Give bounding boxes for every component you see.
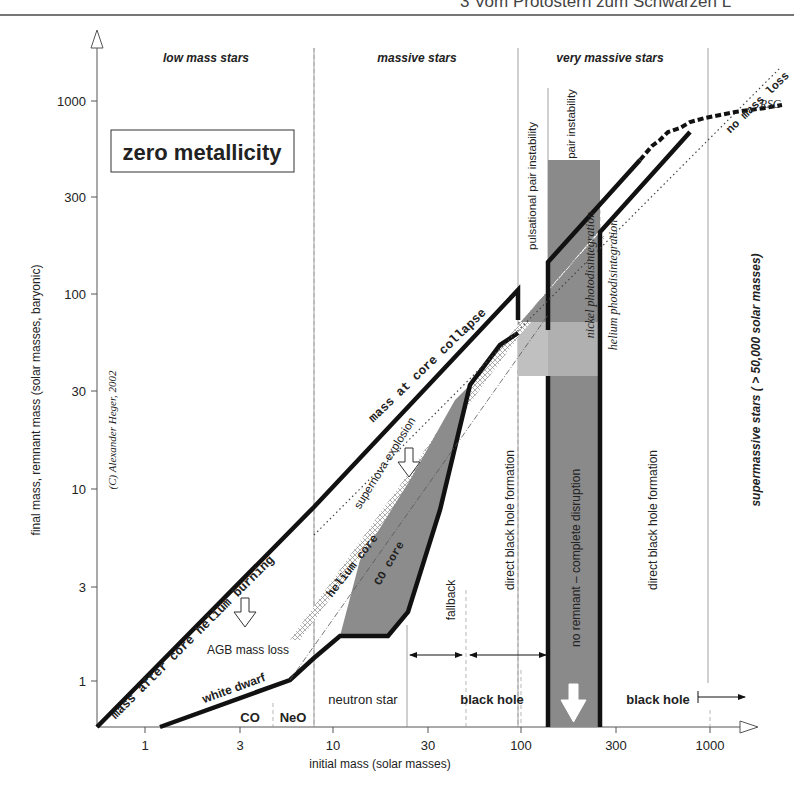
y-tick-10: 10 [72,482,86,497]
x-tick-1000: 1000 [696,738,725,753]
x-tick-3: 3 [236,738,243,753]
label-direct-bh-formation-1: direct black hole formation [503,450,517,590]
label-nickel-photodisintegration: nickel photodisintegration [583,212,597,338]
title-text: zero metallicity [123,140,283,165]
remnant-mass-diagram: 1 3 10 30 100 300 1000 final mass, remna… [0,0,794,801]
label-pair-instability: pair instability [565,89,577,159]
label-neutron-star: neutron star [328,692,398,707]
x-tick-1: 1 [141,738,148,753]
label-black-hole-1: black hole [460,692,524,707]
x-axis: 1 3 10 30 100 300 1000 initial mass (sol… [97,721,758,771]
label-helium-photodisintegration: helium photodisintegration [606,220,620,350]
label-pulsational-pair-instability: pulsational pair instability [526,122,538,250]
label-neo: NeO [280,710,307,725]
x-tick-300: 300 [605,738,627,753]
header-low-mass-stars: low mass stars [163,51,249,65]
header-massive-stars: massive stars [377,51,457,65]
label-supermassive-stars: supermassive stars ( > 50,000 solar mass… [749,253,763,506]
x-tick-100: 100 [510,738,532,753]
curve-rsg [640,105,782,160]
y-axis-label: final mass, remnant mass (solar masses, … [29,265,43,536]
label-fallback: fallback [444,579,458,621]
title-box: zero metallicity [111,130,294,172]
x-axis-label: initial mass (solar masses) [309,757,450,771]
y-axis: 1 3 10 30 100 300 1000 final mass, remna… [29,30,103,727]
y-tick-300: 300 [64,190,86,205]
label-mass-at-core-collapse: mass at core collapse [366,306,489,426]
dashed-guides [273,48,710,727]
x-tick-10: 10 [326,738,340,753]
y-tick-1000: 1000 [57,94,86,109]
copyright-text: (C) Alexander Heger, 2002 [106,370,119,489]
header-very-massive-stars: very massive stars [556,51,664,65]
label-no-mass-loss: no mass loss [723,69,792,136]
x-tick-30: 30 [421,738,435,753]
label-mass-after-core-helium-burning: mass after core helium burning [108,553,277,722]
y-tick-3: 3 [79,580,86,595]
label-black-hole-2: black hole [626,692,690,707]
label-rsg: RSG [759,98,782,110]
y-tick-30: 30 [72,384,86,399]
label-co: CO [240,710,260,725]
y-tick-100: 100 [64,287,86,302]
label-no-remnant: no remnant – complete disruption [569,469,583,647]
label-direct-bh-formation-2: direct black hole formation [646,450,660,590]
y-tick-1: 1 [79,674,86,689]
label-agb-mass-loss: AGB mass loss [207,643,289,657]
